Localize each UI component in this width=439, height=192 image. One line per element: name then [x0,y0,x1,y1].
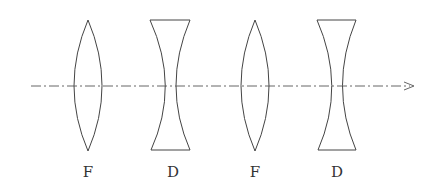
lens-label-4: D [331,163,343,181]
lens-label-1: F [83,163,93,181]
concave-lens-1 [150,20,190,150]
lens-label-2: D [167,163,179,181]
lens-label-3: F [250,163,260,181]
concave-lens-2 [317,20,356,150]
lens-diagram: F D F D [0,0,439,192]
